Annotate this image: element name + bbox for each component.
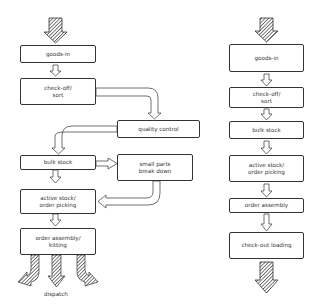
dispatch-arrow-right bbox=[77, 255, 98, 286]
input-arrow-right bbox=[255, 18, 278, 42]
arrow-r-active-to-assembly bbox=[261, 184, 272, 197]
box-right-check-off-sort: check-off/ sort bbox=[229, 87, 304, 108]
arrow-bulk-to-active bbox=[50, 170, 61, 183]
box-left-order-assembly: order assembly/ kitting bbox=[20, 228, 96, 255]
arrow-goods-to-check bbox=[50, 65, 61, 76]
pipe-small-to-active bbox=[98, 181, 160, 208]
input-arrow-left bbox=[44, 18, 67, 43]
arrow-r-check-to-bulk bbox=[261, 109, 272, 120]
output-arrow-right bbox=[255, 262, 278, 293]
dispatch-arrow-center bbox=[48, 255, 65, 287]
arrow-r-assembly-to-checkout bbox=[261, 214, 272, 231]
dispatch-arrow-left bbox=[18, 255, 39, 286]
box-left-active-stock: active stock/ order picking bbox=[20, 189, 96, 214]
box-right-check-out-loading: check-out loading bbox=[229, 232, 304, 259]
arrow-active-to-assembly bbox=[50, 214, 61, 226]
dispatch-label: dispatch bbox=[36, 291, 76, 297]
arrow-r-bulk-to-active bbox=[261, 141, 272, 154]
pipe-check-to-qc bbox=[96, 88, 161, 119]
box-right-goods-in: goods-in bbox=[229, 44, 304, 72]
box-right-order-assembly: order assembly bbox=[229, 198, 304, 213]
box-left-check-off-sort: check-off/ sort bbox=[20, 78, 96, 105]
pipe-qc-to-bulk bbox=[52, 126, 117, 154]
box-right-active-stock: active stock/ order picking bbox=[229, 155, 304, 182]
arrow-bulk-to-small bbox=[96, 158, 117, 169]
box-left-small-parts: small parts break down bbox=[117, 154, 193, 181]
box-right-bulk-stock: bulk stock bbox=[229, 121, 304, 139]
arrow-r-goods-to-check bbox=[261, 74, 272, 86]
box-left-goods-in: goods-in bbox=[20, 45, 96, 63]
box-left-bulk-stock: bulk stock bbox=[20, 155, 96, 170]
box-left-quality-control: quality control bbox=[117, 120, 200, 138]
